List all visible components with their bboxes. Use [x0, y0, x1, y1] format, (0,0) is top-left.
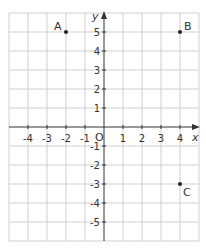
point-b-label: B [184, 20, 192, 33]
y-tick: -1 [90, 141, 100, 152]
x-tick: 1 [120, 133, 126, 144]
x-tick: -2 [61, 133, 71, 144]
y-tick: 1 [94, 103, 100, 114]
x-tick: 2 [139, 133, 145, 144]
x-tick: -4 [23, 133, 33, 144]
y-axis-arrow-icon [101, 11, 107, 19]
y-tick: -5 [90, 217, 100, 228]
y-tick: -4 [90, 198, 100, 209]
coordinate-plane: x y O -4 -3 -2 -1 1 2 3 4 5 4 3 2 1 -1 -… [0, 0, 206, 250]
y-tick: -3 [90, 179, 100, 190]
point-a [64, 30, 68, 34]
x-tick: 4 [177, 133, 183, 144]
y-axis-label: y [91, 10, 99, 23]
y-tick: 3 [94, 65, 100, 76]
x-tick: 3 [158, 133, 164, 144]
y-tick: 5 [94, 27, 100, 38]
x-tick: -3 [42, 133, 52, 144]
x-tick: -1 [80, 133, 90, 144]
y-tick: 2 [94, 84, 100, 95]
point-a-label: A [54, 20, 62, 33]
point-b [178, 30, 182, 34]
y-tick: 4 [94, 46, 100, 57]
point-c-label: C [183, 186, 191, 199]
y-tick: -2 [90, 160, 100, 171]
x-axis-label: x [191, 131, 199, 144]
point-c [178, 182, 182, 186]
